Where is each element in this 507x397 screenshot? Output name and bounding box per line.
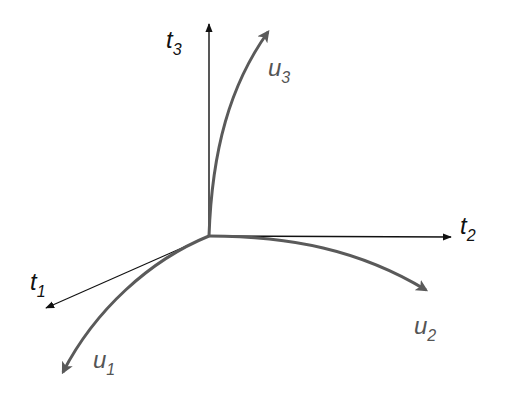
axis-labels: t3 t2 t1 — [30, 26, 476, 300]
label-u3: u3 — [268, 54, 290, 86]
label-t2: t2 — [460, 212, 476, 244]
curve-u2 — [209, 236, 426, 290]
label-u2: u2 — [414, 312, 436, 344]
curve-u1 — [63, 236, 209, 372]
curves-group — [63, 32, 426, 372]
curve-labels: u3 u2 u1 — [93, 54, 436, 378]
label-t1: t1 — [30, 268, 46, 300]
label-t3: t3 — [166, 26, 182, 58]
curve-u3 — [209, 32, 268, 236]
coordinate-diagram: t3 t2 t1 u3 u2 u1 — [0, 0, 507, 397]
label-u1: u1 — [93, 346, 115, 378]
